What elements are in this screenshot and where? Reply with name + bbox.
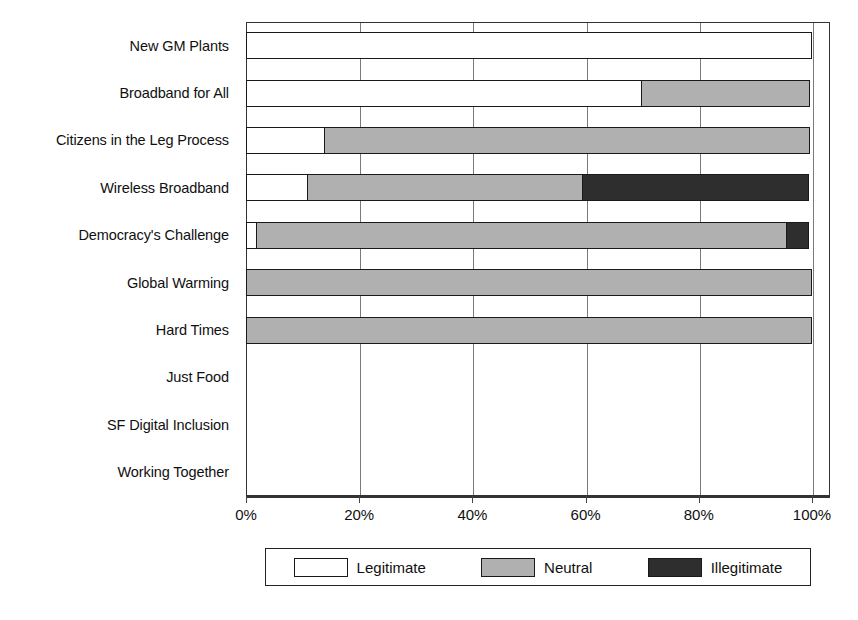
x-axis-tick-label: 60% — [571, 506, 601, 523]
category-label: New GM Plants — [0, 22, 238, 69]
table-row — [246, 164, 830, 211]
legend-label: Illegitimate — [711, 559, 783, 576]
bar-segment-neutral[interactable] — [641, 80, 811, 107]
category-label: Democracy's Challenge — [0, 212, 238, 259]
category-label: Broadband for All — [0, 69, 238, 116]
category-label: Working Together — [0, 449, 238, 496]
x-axis-tick-label: 20% — [344, 506, 374, 523]
x-axis-tick-label: 80% — [684, 506, 714, 523]
stacked-bar[interactable] — [246, 222, 807, 249]
category-label: Citizens in the Leg Process — [0, 117, 238, 164]
stacked-bar[interactable] — [246, 269, 810, 296]
x-axis-tick — [246, 496, 247, 503]
bar-segment-neutral[interactable] — [307, 174, 584, 201]
table-row — [246, 401, 830, 448]
table-row — [246, 354, 830, 401]
stacked-bar[interactable] — [246, 174, 807, 201]
legend-label: Legitimate — [357, 559, 426, 576]
x-axis-tick-label: 100% — [793, 506, 831, 523]
category-label: Hard Times — [0, 306, 238, 353]
bar-segment-legitimate[interactable] — [246, 127, 325, 154]
legend-swatch-neutral — [481, 558, 535, 577]
category-label: Wireless Broadband — [0, 164, 238, 211]
stacked-bar-chart: New GM PlantsBroadband for AllCitizens i… — [0, 0, 858, 620]
x-axis-line — [246, 496, 830, 498]
x-axis-tick — [812, 496, 813, 503]
chart-legend: LegitimateNeutralIllegitimate — [265, 548, 811, 586]
bar-segment-legitimate[interactable] — [246, 174, 308, 201]
bar-segment-illegitimate[interactable] — [582, 174, 808, 201]
legend-swatch-legitimate — [294, 558, 348, 577]
stacked-bar[interactable] — [246, 32, 810, 59]
bar-segment-legitimate[interactable] — [246, 80, 642, 107]
category-label: Global Warming — [0, 259, 238, 306]
bar-segment-neutral[interactable] — [246, 317, 812, 344]
stacked-bar[interactable] — [246, 80, 809, 107]
legend-swatch-illegitimate — [648, 558, 702, 577]
stacked-bar[interactable] — [246, 317, 810, 344]
table-row — [246, 259, 830, 306]
legend-item-legitimate[interactable]: Legitimate — [294, 558, 426, 577]
table-row — [246, 117, 830, 164]
legend-label: Neutral — [544, 559, 592, 576]
bar-segment-illegitimate[interactable] — [786, 222, 809, 249]
legend-item-illegitimate[interactable]: Illegitimate — [648, 558, 783, 577]
table-row — [246, 69, 830, 116]
category-label: SF Digital Inclusion — [0, 401, 238, 448]
x-axis-tick — [472, 496, 473, 503]
bar-segment-neutral[interactable] — [324, 127, 811, 154]
x-axis-tick — [699, 496, 700, 503]
table-row — [246, 22, 830, 69]
table-row — [246, 306, 830, 353]
bar-segment-neutral[interactable] — [246, 269, 812, 296]
bar-segment-neutral[interactable] — [256, 222, 788, 249]
legend-item-neutral[interactable]: Neutral — [481, 558, 592, 577]
x-axis-tick — [586, 496, 587, 503]
stacked-bar[interactable] — [246, 127, 809, 154]
bar-series-container — [246, 22, 830, 496]
x-axis-tick-label: 0% — [235, 506, 257, 523]
x-axis-tick-label: 40% — [457, 506, 487, 523]
category-label: Just Food — [0, 354, 238, 401]
table-row — [246, 212, 830, 259]
category-axis-labels: New GM PlantsBroadband for AllCitizens i… — [0, 22, 238, 496]
x-axis-tick — [359, 496, 360, 503]
table-row — [246, 449, 830, 496]
bar-segment-legitimate[interactable] — [246, 32, 812, 59]
